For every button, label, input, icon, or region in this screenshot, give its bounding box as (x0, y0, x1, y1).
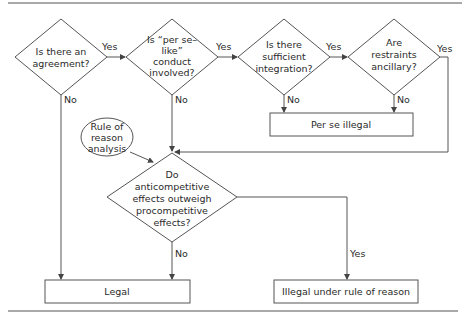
decision-text: Do (165, 169, 178, 180)
edge-label-yes: Yes (101, 41, 117, 52)
edge-d5-illegal (237, 197, 347, 279)
outcome-illegal-rule-of-reason: Illegal under rule of reason (274, 280, 418, 303)
rule-of-reason-node: Rule of reason analysis (81, 118, 133, 156)
node-text: Rule of (91, 121, 125, 132)
decision-per-se-like: Is “per se– like” conduct involved? (126, 19, 218, 95)
decision-text: anticompetitive (135, 181, 210, 192)
decision-text: procompetitive (136, 205, 208, 216)
decision-text: ancillary? (371, 61, 416, 72)
decision-integration: Is there sufficient integration? (238, 19, 330, 95)
decision-text: Are (386, 37, 402, 48)
edge-label-yes: Yes (325, 41, 341, 52)
decision-text: effects? (153, 217, 190, 228)
decision-text: restraints (371, 49, 416, 60)
decision-text: involved? (149, 67, 194, 78)
outcome-per-se-illegal: Per se illegal (270, 113, 413, 136)
edge-label-yes: Yes (436, 43, 452, 54)
outcome-label: Illegal under rule of reason (282, 286, 410, 297)
decision-text: agreement? (32, 58, 89, 69)
edge-label-yes: Yes (215, 41, 231, 52)
edge-label-no: No (175, 248, 188, 259)
outcome-label: Per se illegal (311, 119, 371, 130)
decision-text: Is there an (36, 46, 87, 57)
decision-text: Is “per se– (147, 34, 197, 45)
decision-text: effects outweigh (132, 193, 211, 204)
decision-text: like” (161, 45, 182, 56)
decision-text: Is there (266, 39, 302, 50)
outcome-legal: Legal (45, 280, 190, 303)
decision-agreement: Is there an agreement? (15, 19, 107, 95)
outcome-label: Legal (104, 286, 129, 297)
edge-label-yes: Yes (349, 248, 365, 259)
decision-anticompetitive: Do anticompetitive effects outweigh proc… (107, 153, 237, 242)
edge-label-no: No (287, 94, 300, 105)
node-text: analysis (88, 143, 127, 154)
decision-text: sufficient (262, 51, 306, 62)
decision-text: integration? (255, 63, 312, 74)
flowchart-canvas: Is there an agreement? Is “per se– like”… (0, 0, 465, 325)
decision-text: conduct (153, 56, 191, 67)
edge-label-no: No (175, 94, 188, 105)
edge-label-no: No (64, 94, 77, 105)
decision-ancillary: Are restraints ancillary? (348, 19, 440, 95)
edge-ror-d5 (130, 152, 153, 162)
edge-label-no: No (397, 94, 410, 105)
node-text: reason (91, 132, 123, 143)
